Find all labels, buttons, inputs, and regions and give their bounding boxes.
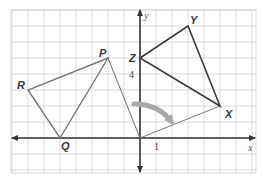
vertex-label-p: P: [99, 47, 107, 59]
y-tick-label: 4: [129, 69, 134, 80]
vertex-label-r: R: [17, 79, 25, 91]
grid-lines: [11, 10, 256, 173]
x-axis-label: x: [247, 142, 253, 153]
triangle-pqr: [28, 58, 108, 138]
coordinate-plane: x y 1 4 P Q R X Y Z: [0, 0, 263, 183]
rotation-rays: [108, 58, 220, 138]
vertex-label-y: Y: [190, 14, 199, 26]
x-tick-label: 1: [154, 141, 159, 152]
triangle-xyz: [140, 26, 220, 106]
y-axis-label: y: [143, 10, 149, 21]
vertex-label-q: Q: [61, 140, 70, 152]
vertex-label-z: Z: [128, 52, 137, 64]
vertex-labels: P Q R X Y Z: [17, 14, 233, 152]
vertex-label-x: X: [224, 108, 233, 120]
